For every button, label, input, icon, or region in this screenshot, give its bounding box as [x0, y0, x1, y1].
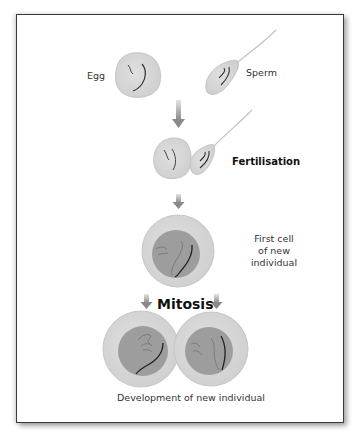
first-cell-line-3: individual — [238, 257, 310, 269]
first-cell-label: First cell of new individual — [238, 233, 310, 269]
fertilisation-cells-icon — [154, 110, 252, 179]
first-cell-line-2: of new — [238, 245, 310, 257]
fertilisation-diagram — [0, 0, 356, 432]
arrow-down-left-icon — [141, 294, 153, 309]
egg-cell-icon — [116, 53, 161, 98]
fertilisation-label: Fertilisation — [232, 156, 300, 168]
sperm-cell-icon — [206, 30, 276, 94]
daughter-cell-left-icon — [103, 311, 179, 387]
sperm-label: Sperm — [246, 67, 277, 79]
first-cell-line-1: First cell — [238, 233, 310, 245]
arrow-down-icon — [172, 100, 185, 128]
daughter-cell-right-icon — [174, 312, 248, 386]
arrow-down-icon — [173, 194, 185, 209]
development-label: Development of new individual — [117, 392, 265, 404]
mitosis-label: Mitosis — [157, 296, 214, 313]
zygote-cell-icon — [142, 215, 214, 287]
egg-label: Egg — [87, 70, 105, 82]
